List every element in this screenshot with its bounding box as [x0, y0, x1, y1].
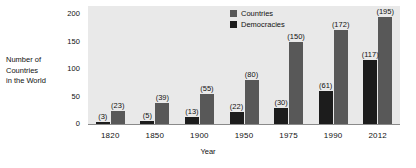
bar-countries-1990: [334, 30, 348, 124]
y-axis-tick-100: 100: [50, 65, 80, 73]
y-axis-tick-150: 150: [50, 38, 80, 46]
bar-chart: Number of Countries in the World 0501001…: [0, 0, 416, 168]
bar-democracies-1900: [185, 117, 199, 124]
bar-countries-2012: [378, 17, 392, 124]
bar-democracies-1950: [230, 112, 244, 124]
value-label-countries-1820: (23): [96, 102, 140, 110]
bar-democracies-1850: [140, 121, 154, 124]
bar-democracies-1820: [96, 122, 110, 124]
y-axis-tick-200: 200: [50, 10, 80, 18]
value-label-democracies-1850: (5): [125, 112, 169, 120]
x-axis-line: [88, 124, 400, 125]
bar-democracies-2012: [363, 60, 377, 124]
y-axis-title-line-3: in the World: [6, 76, 78, 87]
bar-democracies-1975: [274, 108, 288, 124]
value-label-democracies-1820: (3): [81, 113, 125, 121]
value-label-countries-1975: (150): [274, 33, 318, 41]
value-label-countries-2012: (195): [363, 8, 407, 16]
bar-countries-1975: [289, 42, 303, 124]
value-label-democracies-2012: (117): [348, 51, 392, 59]
y-axis-tick-50: 50: [50, 93, 80, 101]
bars-container: (3)(23)(5)(39)(13)(55)(22)(80)(30)(150)(…: [88, 6, 400, 124]
value-label-democracies-1990: (61): [304, 82, 348, 90]
x-axis-title: Year: [0, 147, 416, 156]
value-label-democracies-1975: (30): [259, 99, 303, 107]
value-label-countries-1990: (172): [319, 21, 363, 29]
y-axis-tick-0: 0: [50, 120, 80, 128]
value-label-countries-1850: (39): [140, 94, 184, 102]
x-axis-tick-2012: 2012: [348, 131, 408, 140]
value-label-democracies-1900: (13): [170, 108, 214, 116]
bar-democracies-1990: [319, 91, 333, 124]
value-label-countries-1900: (55): [185, 85, 229, 93]
value-label-countries-1950: (80): [230, 71, 274, 79]
value-label-democracies-1950: (22): [215, 103, 259, 111]
